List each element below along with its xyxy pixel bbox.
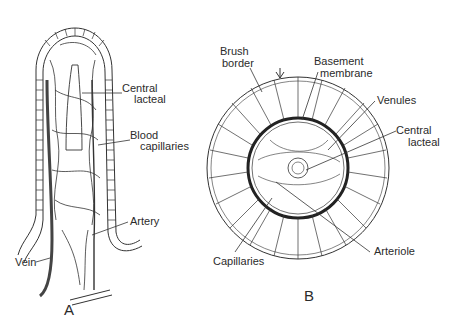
label-central-lacteal-a-line2: lacteal [134, 94, 166, 105]
panel-letter-b: B [304, 288, 314, 303]
label-central-lacteal-b: Central [396, 125, 431, 136]
label-arteriole: Arteriole [374, 246, 415, 257]
label-artery: Artery [130, 216, 159, 227]
label-capillaries: Capillaries [213, 256, 264, 267]
label-basement-membrane: Basement [314, 56, 364, 67]
villus-diagram-figure: Central lacteal Blood capillaries Artery… [0, 0, 455, 320]
label-basement-membrane-line2: membrane [320, 68, 373, 79]
label-central-lacteal-b-line2: lacteal [408, 137, 440, 148]
label-vein: Vein [15, 257, 36, 268]
panel-letter-a: A [64, 302, 74, 317]
label-venules: Venules [377, 95, 416, 106]
label-blood-capillaries-line2: capillaries [140, 141, 189, 152]
label-brush-border-line2: border [222, 58, 254, 69]
label-brush-border: Brush [220, 46, 249, 57]
